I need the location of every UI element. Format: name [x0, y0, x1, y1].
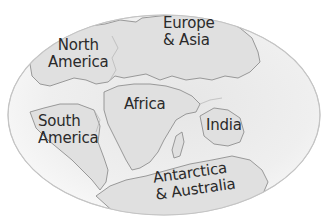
label-africa: Africa: [124, 96, 166, 113]
label-line: Africa: [124, 96, 166, 113]
label-line: America: [48, 54, 108, 71]
label-south-america: South America: [38, 113, 98, 147]
label-india: India: [206, 117, 242, 134]
label-line: Europe: [163, 15, 215, 32]
label-north-america: North America: [48, 37, 108, 71]
label-line: & Asia: [163, 32, 215, 49]
label-line: America: [38, 130, 98, 147]
label-line: South: [38, 113, 98, 130]
label-line: India: [206, 117, 242, 134]
label-line: North: [48, 37, 108, 54]
label-europe-asia: Europe & Asia: [163, 15, 215, 49]
